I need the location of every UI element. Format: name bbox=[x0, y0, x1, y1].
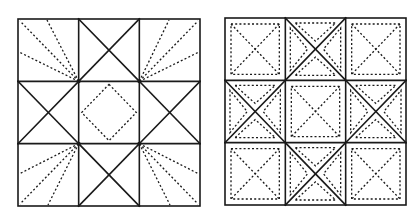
fan-origin-dot bbox=[77, 79, 81, 83]
corner-fan-dashed-ray bbox=[48, 144, 79, 205]
corner-fan-dashed-ray bbox=[20, 21, 79, 81]
inset-dashed-triangle bbox=[351, 90, 368, 132]
right-quilt-block bbox=[225, 18, 406, 205]
inset-dashed-triangle bbox=[324, 153, 341, 195]
quilt-diagram bbox=[0, 0, 418, 219]
inset-dashed-triangle bbox=[235, 85, 275, 103]
inset-dashed-triangle bbox=[235, 120, 275, 138]
corner-fan-dashed-ray bbox=[19, 52, 79, 81]
inset-dashed-triangle bbox=[263, 90, 280, 132]
inset-dashed-triangle bbox=[295, 182, 335, 200]
inset-dashed-triangle bbox=[384, 90, 401, 132]
corner-fan-dashed-ray bbox=[139, 144, 198, 204]
inset-dashed-triangle bbox=[356, 85, 396, 103]
corner-fan-dashed-ray bbox=[47, 20, 79, 81]
inset-dashed-triangle bbox=[356, 120, 396, 138]
center-dashed-diamond bbox=[82, 84, 137, 140]
inset-dashed-triangle bbox=[230, 90, 247, 132]
inset-dashed-triangle bbox=[295, 148, 335, 166]
inset-dashed-triangle bbox=[295, 57, 335, 75]
corner-fan-dashed-ray bbox=[139, 20, 169, 81]
left-quilt-block bbox=[18, 19, 200, 206]
corner-fan-dashed-ray bbox=[139, 144, 170, 205]
fan-origin-dot bbox=[77, 142, 81, 146]
corner-fan-dashed-ray bbox=[139, 21, 198, 81]
fan-origin-dot bbox=[137, 142, 141, 146]
fan-origin-dot bbox=[137, 79, 141, 83]
corner-fan-dashed-ray bbox=[139, 144, 199, 174]
inset-dashed-triangle bbox=[295, 23, 335, 41]
corner-fan-dashed-ray bbox=[20, 144, 79, 204]
inset-dashed-triangle bbox=[290, 28, 307, 70]
inset-dashed-triangle bbox=[290, 153, 307, 195]
inset-dashed-triangle bbox=[324, 28, 341, 70]
corner-fan-dashed-ray bbox=[19, 144, 79, 174]
corner-fan-dashed-ray bbox=[139, 52, 199, 81]
